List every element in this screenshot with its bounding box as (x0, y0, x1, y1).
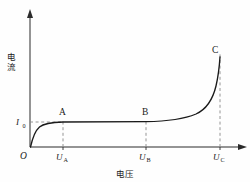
ua-tick-label-group: U A (56, 152, 69, 163)
ub-subscript-label: B (147, 156, 151, 163)
point-b-label: B (142, 107, 148, 117)
y-axis-title-stack: 电 流 (5, 52, 17, 72)
i0-tick-label-group: I 0 (15, 117, 26, 129)
i0-subscript-label: 0 (23, 122, 26, 129)
uc-subscript-label: C (221, 156, 225, 163)
x-axis-title: 电压 (116, 169, 134, 179)
y-axis-title-char-a: 电 (5, 52, 17, 62)
ua-subscript-label: A (64, 156, 69, 163)
point-c-label: C (212, 45, 218, 55)
ua-variable-label: U (56, 152, 63, 162)
chart-text-layer: O I 0 U A U B U C A B C 电压 (0, 0, 250, 182)
ub-variable-label: U (139, 152, 146, 162)
point-a-label: A (59, 107, 66, 117)
i0-variable-label: I (15, 117, 20, 127)
uc-tick-label-group: U C (213, 152, 225, 163)
iv-characteristic-figure: O I 0 U A U B U C A B C 电压 (0, 0, 250, 182)
y-axis-title-char-b: 流 (5, 62, 17, 72)
origin-label: O (20, 151, 27, 161)
ub-tick-label-group: U B (139, 152, 151, 163)
uc-variable-label: U (213, 152, 220, 162)
